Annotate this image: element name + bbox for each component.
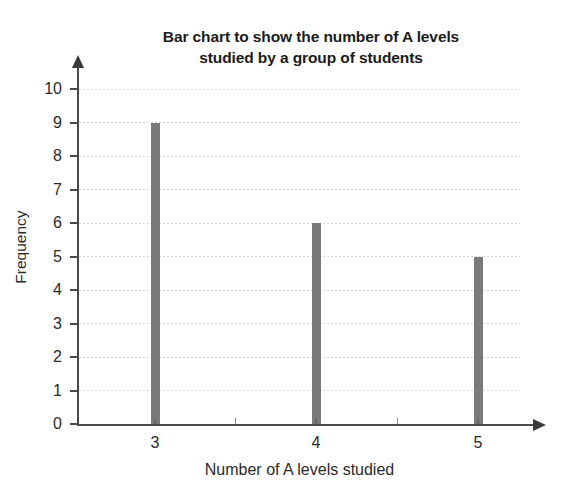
- gridline: [79, 323, 520, 324]
- x-axis-arrow-icon: [533, 419, 546, 431]
- y-axis-title: Frequency: [12, 187, 30, 307]
- gridline: [79, 256, 520, 257]
- y-tick-label: 0: [22, 416, 62, 432]
- gridline: [79, 156, 520, 157]
- gridline: [79, 390, 520, 391]
- y-tick-label: 8: [22, 148, 62, 164]
- y-tick-label: 2: [22, 349, 62, 365]
- gridline: [79, 357, 520, 358]
- y-tick-label: 1: [22, 383, 62, 399]
- x-tick-label: 4: [293, 435, 339, 451]
- x-axis-title: Number of A levels studied: [79, 461, 520, 479]
- gridline: [79, 223, 520, 224]
- gridline: [79, 189, 520, 190]
- y-tick-label: 10: [22, 81, 62, 97]
- gridline: [79, 89, 520, 90]
- gridline: [79, 122, 520, 123]
- y-axis-line: [77, 66, 79, 425]
- plot-area: 012345678910 345: [0, 0, 577, 492]
- bar-chart-figure: Bar chart to show the number of A levels…: [0, 0, 577, 492]
- gridline: [79, 290, 520, 291]
- bar-5: [474, 257, 483, 425]
- bar-4: [312, 223, 321, 424]
- y-axis-arrow-icon: [72, 55, 84, 68]
- bar-3: [151, 123, 160, 425]
- x-tick-label: 5: [455, 435, 501, 451]
- x-tick-label: 3: [132, 435, 178, 451]
- y-tick-label: 3: [22, 316, 62, 332]
- y-tick-label: 9: [22, 115, 62, 131]
- x-axis-line: [77, 424, 536, 426]
